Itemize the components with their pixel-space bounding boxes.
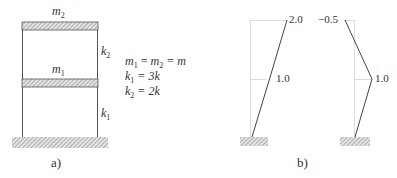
ground-support-mode1 bbox=[240, 137, 268, 146]
mode2-mid-value: 1.0 bbox=[375, 73, 389, 84]
equation-mass: m1 = m2 = m bbox=[125, 55, 186, 70]
stiffness-label-k1: k1 bbox=[101, 107, 110, 122]
middle-slab-m1 bbox=[22, 79, 98, 87]
ground-support-mode2 bbox=[340, 137, 370, 146]
top-slab-m2 bbox=[22, 22, 98, 30]
mass-label-m2: m2 bbox=[52, 5, 65, 20]
mode1-top-value: 2.0 bbox=[289, 14, 303, 25]
mode-shape-2 bbox=[340, 20, 372, 146]
mode2-shape-line bbox=[345, 20, 372, 137]
caption-a: a) bbox=[51, 156, 61, 169]
mode1-mid-value: 1.0 bbox=[276, 73, 290, 84]
diagram-canvas: m2 m1 k2 k1 m1 = m2 = m k1 = 3k k2 = 2k … bbox=[0, 0, 397, 178]
stiffness-label-k2: k2 bbox=[101, 45, 110, 60]
equation-k2: k2 = 2k bbox=[125, 85, 160, 100]
diagram-graphics bbox=[0, 0, 397, 178]
equation-k1: k1 = 3k bbox=[125, 70, 160, 85]
ground-support-a bbox=[12, 137, 108, 148]
mode2-top-value: −0.5 bbox=[318, 14, 338, 25]
mass-label-m1: m1 bbox=[52, 63, 65, 78]
caption-b: b) bbox=[297, 156, 308, 169]
shear-frame bbox=[12, 22, 108, 148]
